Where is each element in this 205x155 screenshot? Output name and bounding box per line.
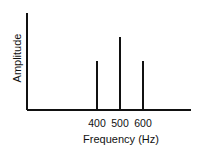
x-tick-500: 500 — [111, 117, 129, 129]
x-tick-600: 600 — [134, 117, 152, 129]
x-tick-400: 400 — [88, 117, 106, 129]
y-axis-label: Amplitude — [11, 34, 23, 83]
spectrum-chart — [0, 0, 205, 155]
x-axis-label: Frequency (Hz) — [83, 133, 159, 145]
